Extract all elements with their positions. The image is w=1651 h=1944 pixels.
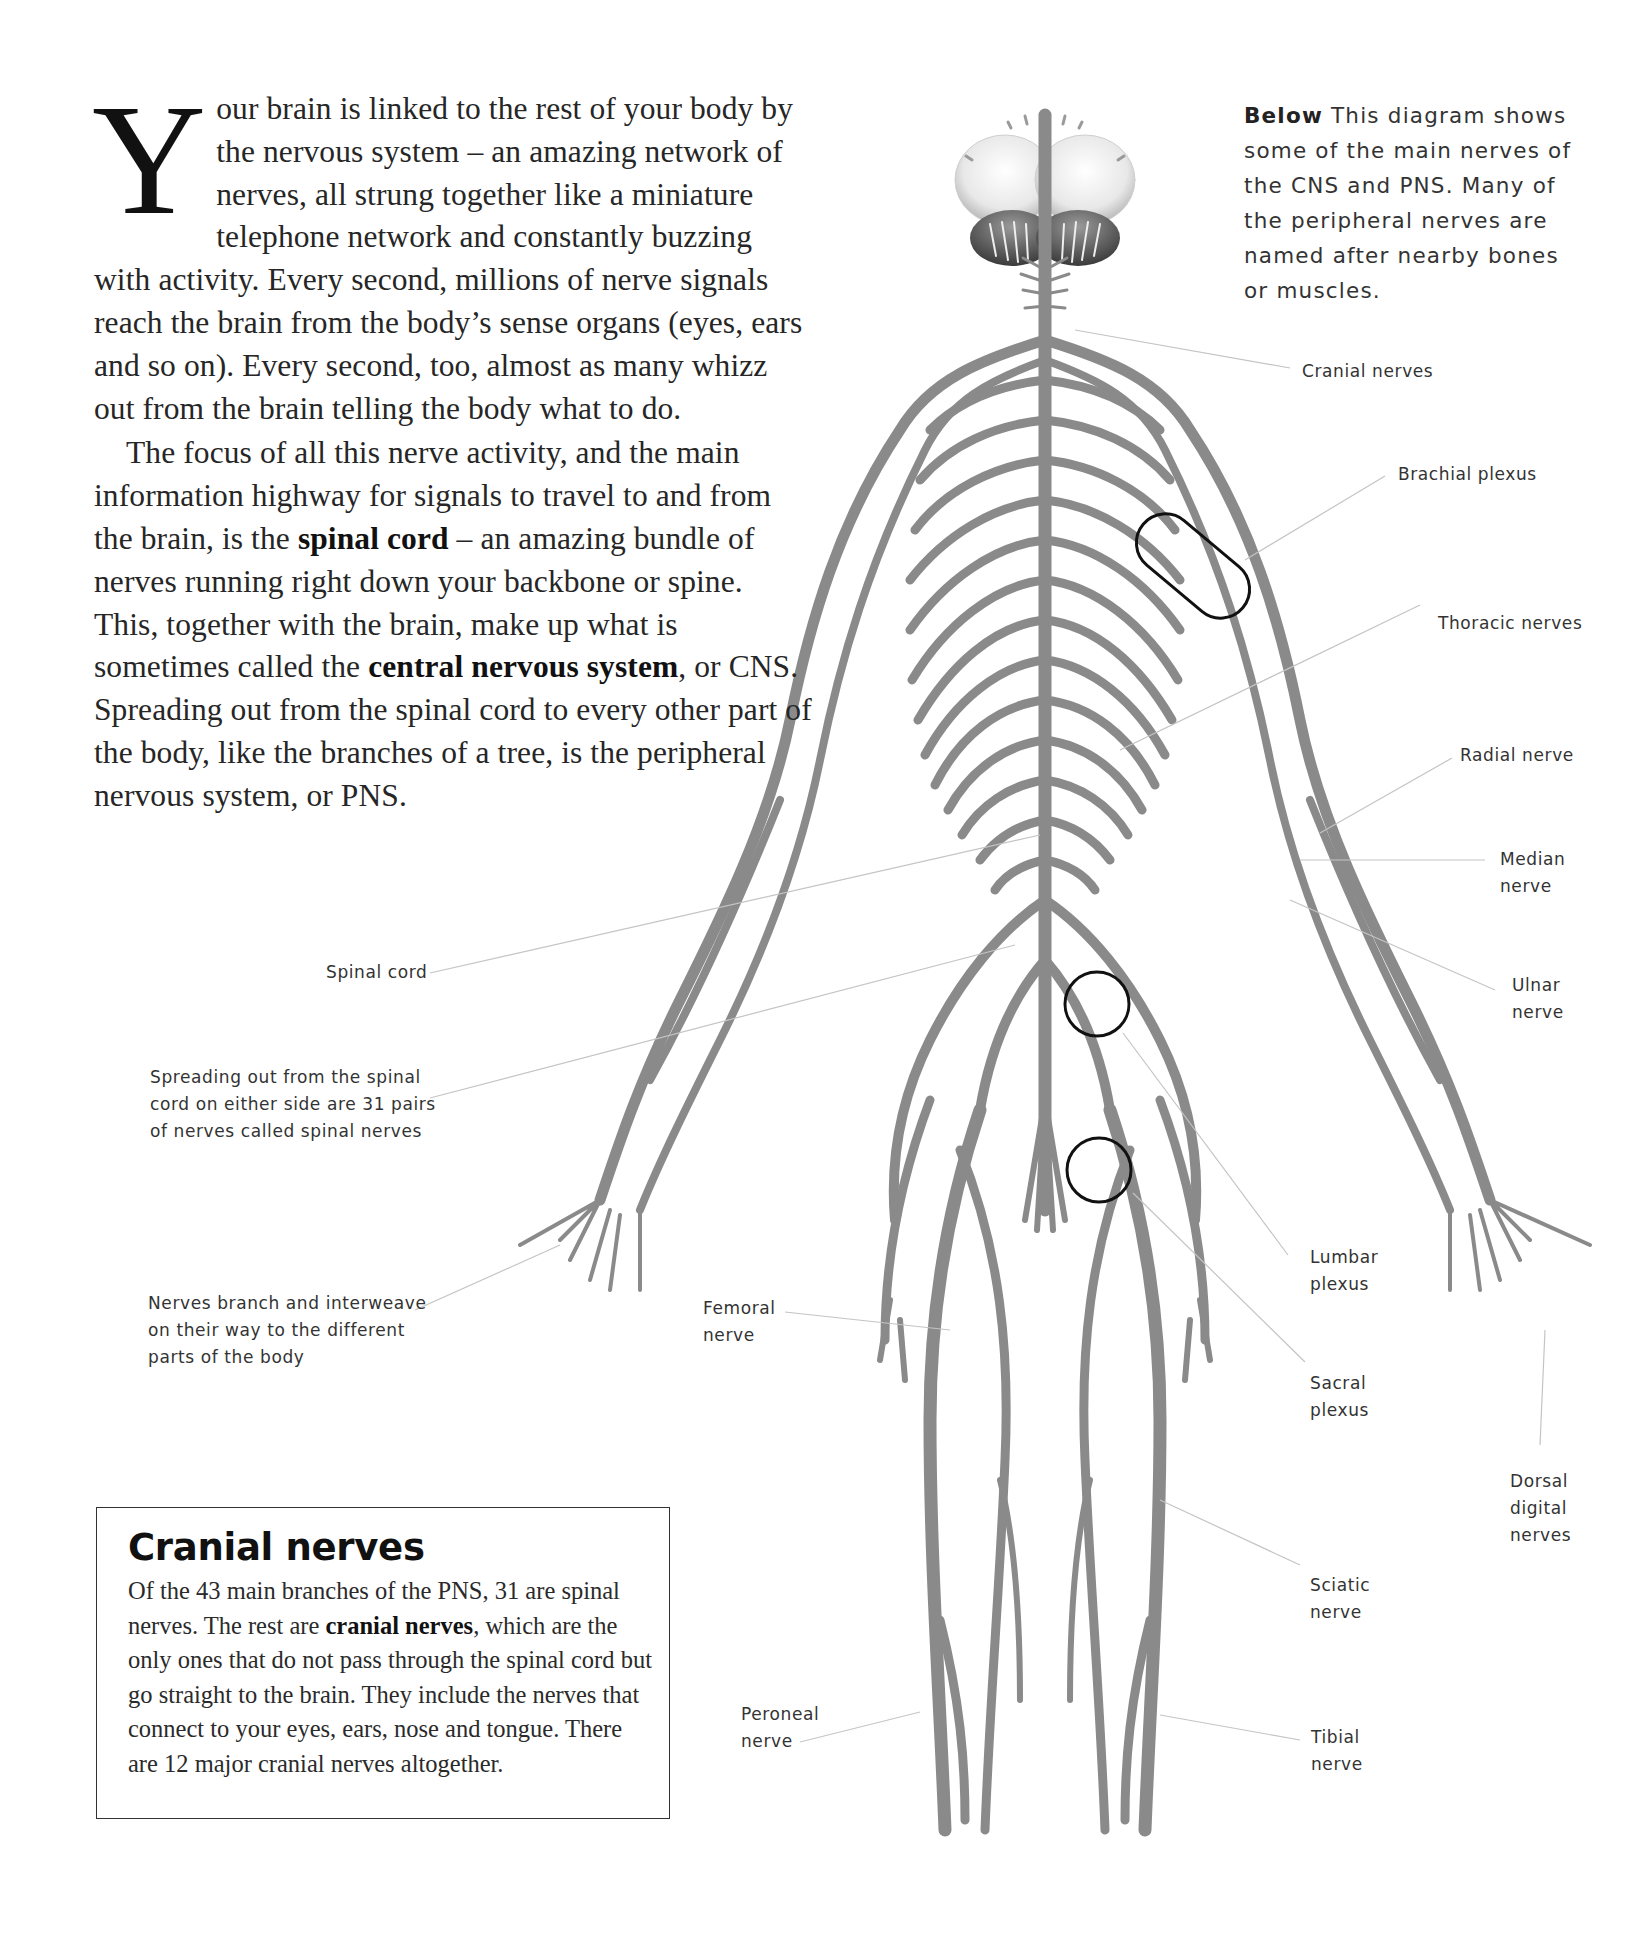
label-sciatic-nerve: Sciatic nerve bbox=[1310, 1572, 1370, 1626]
intro-text: Your brain is linked to the rest of your… bbox=[94, 88, 814, 818]
label-spinal-cord: Spinal cord bbox=[326, 959, 427, 986]
figure-caption: Below This diagram shows some of the mai… bbox=[1244, 98, 1584, 308]
label-sacral-plexus: Sacral plexus bbox=[1310, 1370, 1369, 1424]
label-median-nerve: Median nerve bbox=[1500, 846, 1565, 900]
intro-paragraph-2: The focus of all this nerve activity, an… bbox=[94, 432, 814, 817]
drop-cap: Y bbox=[92, 100, 206, 220]
intro-paragraph-1: Your brain is linked to the rest of your… bbox=[94, 88, 814, 430]
caption-lead: Below bbox=[1244, 103, 1323, 128]
term-cranial-nerves: cranial nerves bbox=[326, 1612, 474, 1639]
label-branch-note: Nerves branch and interweave on their wa… bbox=[148, 1290, 427, 1371]
label-lumbar-plexus: Lumbar plexus bbox=[1310, 1244, 1378, 1298]
label-radial-nerve: Radial nerve bbox=[1460, 742, 1574, 769]
label-cranial-nerves: Cranial nerves bbox=[1302, 358, 1433, 385]
label-femoral-nerve: Femoral nerve bbox=[703, 1295, 776, 1349]
term-cns: central nervous system bbox=[368, 649, 678, 684]
label-spinal-nerves-note: Spreading out from the spinal cord on ei… bbox=[150, 1064, 436, 1145]
box-title: Cranial nerves bbox=[128, 1526, 669, 1570]
label-ulnar-nerve: Ulnar nerve bbox=[1512, 972, 1564, 1026]
box-body: Of the 43 main branches of the PNS, 31 a… bbox=[128, 1574, 658, 1781]
label-dorsal-digital-nerves: Dorsal digital nerves bbox=[1510, 1468, 1571, 1549]
cranial-nerves-box: Cranial nerves Of the 43 main branches o… bbox=[96, 1507, 670, 1819]
label-tibial-nerve: Tibial nerve bbox=[1311, 1724, 1363, 1778]
label-thoracic-nerves: Thoracic nerves bbox=[1438, 610, 1582, 637]
label-brachial-plexus: Brachial plexus bbox=[1398, 461, 1537, 488]
label-peroneal-nerve: Peroneal nerve bbox=[741, 1701, 819, 1755]
term-spinal-cord: spinal cord bbox=[298, 521, 449, 556]
